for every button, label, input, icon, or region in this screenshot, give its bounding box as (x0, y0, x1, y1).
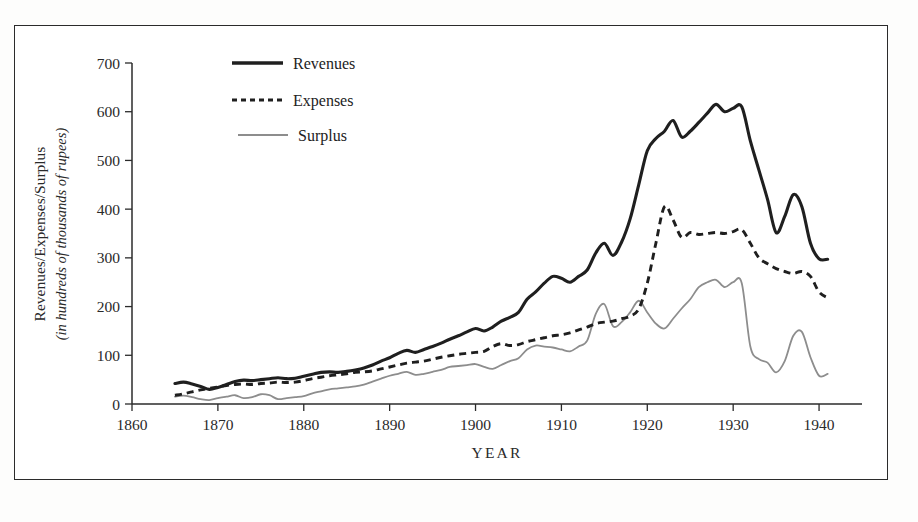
x-tick-label: 1880 (288, 416, 319, 433)
x-tick-label: 1890 (374, 416, 405, 433)
line-chart: 0100200300400500600700 18601870188018901… (0, 0, 918, 522)
x-axis-ticks: 186018701880189019001910192019301940 (117, 404, 835, 433)
x-axis-title: YEAR (472, 444, 523, 461)
y-tick-label: 600 (97, 103, 121, 120)
x-tick-label: 1920 (632, 416, 663, 433)
legend-item-expenses: Expenses (232, 92, 353, 110)
x-tick-label: 1900 (460, 416, 491, 433)
x-tick-label: 1930 (718, 416, 749, 433)
y-tick-label: 200 (97, 298, 121, 315)
y-tick-label: 700 (97, 55, 121, 72)
y-tick-label: 100 (97, 347, 121, 364)
legend-label-surplus: Surplus (298, 127, 347, 145)
x-tick-label: 1910 (546, 416, 577, 433)
x-tick-label: 1860 (117, 416, 148, 433)
y-axis-ticks: 0100200300400500600700 (97, 55, 132, 413)
legend-item-surplus: Surplus (238, 127, 347, 145)
legend-label-expenses: Expenses (293, 92, 353, 110)
x-tick-label: 1940 (804, 416, 835, 433)
legend-label-revenues: Revenues (293, 55, 355, 72)
x-tick-label: 1870 (202, 416, 233, 433)
y-tick-label: 0 (112, 396, 120, 413)
legend-item-revenues: Revenues (232, 55, 355, 72)
y-tick-label: 500 (97, 152, 121, 169)
figure-root: 0100200300400500600700 18601870188018901… (0, 0, 918, 522)
series-line-revenues (175, 104, 828, 389)
y-tick-label: 400 (97, 201, 121, 218)
y-axis-title: Revenues/Expenses/Surplus (31, 147, 48, 322)
chart-legend: Revenues Expenses Surplus (232, 55, 355, 145)
series-line-expenses (175, 206, 828, 395)
y-tick-label: 300 (97, 249, 121, 266)
y-axis-subtitle: (in hundreds of thousands of rupees) (53, 128, 70, 341)
